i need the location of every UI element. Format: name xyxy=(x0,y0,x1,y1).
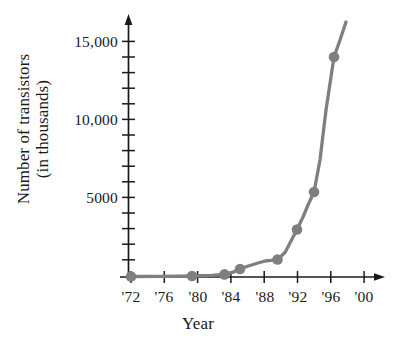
plot-area xyxy=(0,0,396,349)
data-point xyxy=(235,264,246,275)
data-point xyxy=(187,271,198,282)
y-axis xyxy=(125,14,133,277)
data-point xyxy=(292,224,303,235)
data-point xyxy=(329,52,340,63)
transistor-growth-curve xyxy=(131,22,346,277)
data-point xyxy=(219,269,230,280)
data-point xyxy=(126,271,137,282)
transistor-count-chart: Number of transistors (in thousands) Yea… xyxy=(0,0,396,349)
data-point xyxy=(309,187,320,198)
data-point xyxy=(272,254,283,265)
data-point-markers xyxy=(126,52,340,282)
